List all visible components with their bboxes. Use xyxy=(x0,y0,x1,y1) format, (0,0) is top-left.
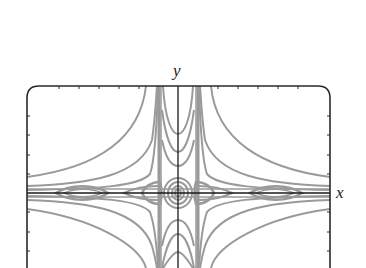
x-axis-label: x xyxy=(336,184,344,201)
curve-lr-2 xyxy=(200,200,330,268)
curve-upper-right-outer xyxy=(211,86,330,177)
phase-plot xyxy=(0,0,366,268)
curve-upper-left-outer xyxy=(27,86,146,177)
y-axis-label: y xyxy=(173,62,181,79)
diagram: y x xyxy=(0,0,366,268)
curve-ul-2 xyxy=(27,86,157,186)
curve-ll-2 xyxy=(27,200,157,268)
curve-ur-2 xyxy=(200,86,330,186)
